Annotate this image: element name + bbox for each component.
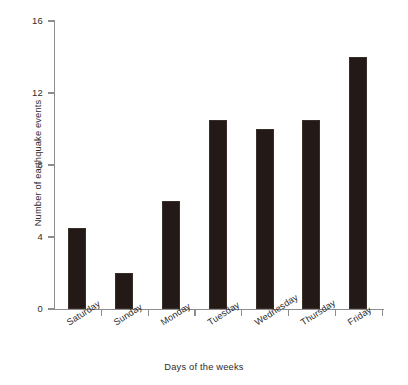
x-tick-5: [335, 310, 336, 316]
y-tick-label-4: 4: [13, 231, 43, 242]
y-tick-16: [48, 20, 55, 21]
y-tick-label-16: 16: [13, 15, 43, 26]
y-tick-label-8: 8: [13, 159, 43, 170]
bar-chart: Number of earthquake events 0481216 Satu…: [0, 0, 408, 385]
bar-monday: [162, 201, 180, 309]
x-tick-1: [148, 310, 149, 316]
bar-sunday: [115, 273, 133, 309]
y-tick-label-12: 12: [13, 87, 43, 98]
x-tick-4: [288, 310, 289, 316]
y-tick-label-0: 0: [13, 303, 43, 314]
x-tick-6: [382, 310, 383, 316]
bar-friday: [349, 57, 367, 309]
x-tick-3: [241, 310, 242, 316]
y-tick-0: [48, 308, 55, 309]
bar-tuesday: [209, 120, 227, 309]
bar-wednesday: [256, 129, 274, 309]
bar-saturday: [68, 228, 86, 309]
x-axis-title: Days of the weeks: [0, 362, 408, 372]
x-tick-2: [194, 310, 195, 316]
y-tick-4: [48, 236, 55, 237]
x-tick-0: [101, 310, 102, 316]
bar-thursday: [302, 120, 320, 309]
y-tick-8: [48, 164, 55, 165]
y-tick-12: [48, 92, 55, 93]
